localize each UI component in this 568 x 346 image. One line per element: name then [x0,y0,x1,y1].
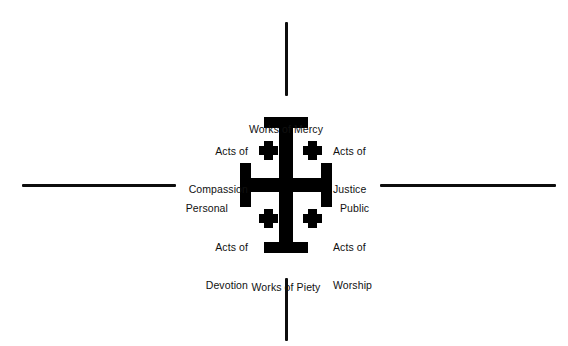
quadrant-label-bottom-right-line1: Acts of [333,241,443,254]
quadrant-label-top-right: Acts of Justice [333,120,443,221]
diagram-canvas: Works of Mercy Works of Piety Personal P… [0,0,568,346]
quadrant-label-top-left-line1: Acts of [138,145,248,158]
quadrant-label-bottom-left-line1: Acts of [138,241,248,254]
quadrant-label-bottom-right: Acts of Worship [333,216,443,317]
quadrant-label-bottom-right-line2: Worship [333,279,443,292]
quadrant-label-top-right-line2: Justice [333,183,443,196]
quadrant-label-top-right-line1: Acts of [333,145,443,158]
quadrant-label-bottom-left-line2: Devotion [138,279,248,292]
quadrant-label-bottom-left: Acts of Devotion [138,216,248,317]
quadrant-label-top-left-line2: Compassion [138,183,248,196]
axis-line-top [285,22,288,96]
quadrant-label-top-left: Acts of Compassion [138,120,248,221]
